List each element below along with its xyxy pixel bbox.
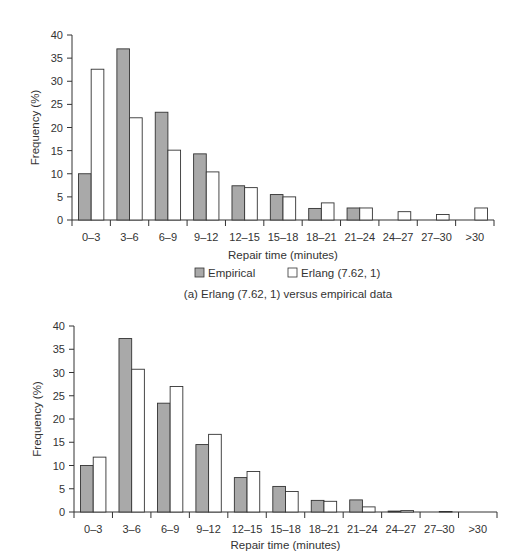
y-tick-label: 5 [59,483,65,495]
y-tick-label: 20 [51,122,63,134]
figure: 0510152025303540Frequency (%)0–33–66–99–… [0,0,525,552]
legend-label-erlang: Erlang (7.62, 1) [301,267,380,279]
x-tick-label: 3–6 [123,523,141,535]
y-tick-label: 40 [51,29,63,41]
x-tick-label: >30 [468,523,487,535]
x-tick-label: 9–12 [196,523,220,535]
bar-empirical [157,403,170,512]
bar-erlang [206,172,219,220]
bar-erlang [362,507,375,512]
x-axis-title: Repair time (minutes) [228,249,338,261]
bar-empirical [388,511,401,512]
bottom-chart: 0510152025303540Frequency (%)0–33–66–99–… [31,320,497,551]
bar-erlang [209,434,222,512]
y-tick-label: 10 [53,460,65,472]
bar-erlang [247,472,260,512]
y-tick-label: 0 [59,506,65,518]
bar-erlang [436,214,449,220]
bar-empirical [155,112,168,220]
bar-empirical [311,500,324,512]
bar-empirical [119,339,132,512]
x-tick-label: 27–30 [424,523,455,535]
bar-erlang [170,386,183,512]
bar-erlang [286,492,299,512]
bar-empirical [273,486,286,512]
top-chart-caption: (a) Erlang (7.62, 1) versus empirical da… [184,288,393,300]
x-tick-label: 18–21 [306,231,337,243]
x-tick-label: 0–3 [84,523,102,535]
bar-erlang [91,69,104,220]
bar-erlang [130,118,143,220]
bar-erlang [360,208,373,220]
x-tick-label: 6–9 [161,523,179,535]
legend-label-empirical: Empirical [208,267,255,279]
x-tick-label: 15–18 [268,231,299,243]
y-tick-label: 25 [53,390,65,402]
bar-erlang [245,188,258,220]
bar-erlang [475,208,488,220]
bar-empirical [81,466,94,513]
y-tick-label: 10 [51,168,63,180]
x-tick-label: 12–15 [232,523,263,535]
y-tick-label: 35 [51,52,63,64]
bar-empirical [234,478,247,512]
bar-erlang [168,150,181,220]
x-tick-label: 6–9 [159,231,177,243]
y-tick-label: 15 [53,436,65,448]
x-tick-label: 9–12 [194,231,218,243]
y-tick-label: 35 [53,343,65,355]
bar-empirical [232,186,245,220]
x-tick-label: 0–3 [82,231,100,243]
bar-empirical [117,49,130,220]
y-tick-label: 40 [53,320,65,332]
x-tick-label: 21–24 [344,231,375,243]
x-axis-title: Repair time (minutes) [231,539,341,551]
bar-erlang [283,197,296,220]
x-tick-label: 3–6 [120,231,138,243]
y-tick-label: 25 [51,98,63,110]
x-tick-label: 18–21 [309,523,340,535]
bar-erlang [324,501,337,512]
y-tick-label: 5 [57,191,63,203]
y-tick-label: 30 [51,75,63,87]
bar-empirical [196,445,209,512]
y-axis-title: Frequency (%) [31,381,43,457]
y-tick-label: 0 [57,214,63,226]
y-tick-label: 20 [53,413,65,425]
x-tick-label: 15–18 [270,523,301,535]
bar-empirical [194,154,207,220]
x-tick-label: 24–27 [386,523,417,535]
y-tick-label: 30 [53,367,65,379]
bar-erlang [321,203,334,220]
bar-erlang [132,369,145,512]
legend: Empirical Erlang (7.62, 1) [195,267,380,279]
bar-empirical [350,500,363,512]
bar-erlang [398,212,411,220]
x-tick-label: 27–30 [421,231,452,243]
bar-empirical [347,208,360,220]
top-chart: 0510152025303540Frequency (%)0–33–66–99–… [29,29,494,261]
x-tick-label: 24–27 [383,231,414,243]
legend-swatch-empirical [195,268,204,277]
bar-erlang [93,457,106,512]
x-tick-label: 21–24 [347,523,378,535]
y-tick-label: 15 [51,145,63,157]
x-tick-label: 12–15 [229,231,260,243]
bar-empirical [270,195,283,220]
bar-empirical [79,174,92,220]
legend-swatch-erlang [288,268,297,277]
y-axis-title: Frequency (%) [29,90,41,166]
x-tick-label: >30 [465,231,484,243]
bar-erlang [401,511,414,512]
bar-empirical [309,208,322,220]
